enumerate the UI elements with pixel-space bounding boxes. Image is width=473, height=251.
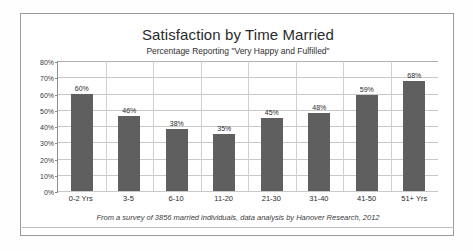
x-axis-category-label: 21-30 xyxy=(248,194,296,203)
y-axis-tick-mark xyxy=(55,192,58,193)
chart-title: Satisfaction by Time Married xyxy=(21,26,455,43)
bar[interactable]: 38% xyxy=(166,129,188,191)
bar[interactable]: 45% xyxy=(261,118,283,191)
bar[interactable]: 35% xyxy=(213,134,235,191)
y-axis-tick-label: 60% xyxy=(40,91,54,98)
bar-value-label: 59% xyxy=(360,86,374,93)
bar-slot: 45% xyxy=(248,61,296,191)
bar-slot: 46% xyxy=(106,61,154,191)
bar-slot: 68% xyxy=(391,61,439,191)
bar-value-label: 60% xyxy=(75,85,89,92)
chart-page: Satisfaction by Time Married Percentage … xyxy=(0,0,473,251)
y-axis-tick-label: 50% xyxy=(40,107,54,114)
bar-value-label: 48% xyxy=(312,104,326,111)
chart-frame: Satisfaction by Time Married Percentage … xyxy=(20,13,454,236)
bar[interactable]: 46% xyxy=(118,116,140,191)
bar-slot: 38% xyxy=(153,61,201,191)
bar-value-label: 46% xyxy=(122,107,136,114)
y-axis-tick-label: 0% xyxy=(44,189,54,196)
footnote-divider xyxy=(22,227,454,228)
title-block: Satisfaction by Time Married Percentage … xyxy=(21,26,455,56)
bar[interactable]: 59% xyxy=(356,95,378,191)
bars-layer: 60%46%38%35%45%48%59%68% xyxy=(58,61,438,191)
y-axis-tick-label: 40% xyxy=(40,124,54,131)
y-axis-tick-label: 20% xyxy=(40,156,54,163)
x-axis-category-label: 31-40 xyxy=(295,194,343,203)
y-axis-tick-label: 30% xyxy=(40,140,54,147)
bar-slot: 59% xyxy=(343,61,391,191)
bar-slot: 48% xyxy=(296,61,344,191)
chart-subtitle: Percentage Reporting "Very Happy and Ful… xyxy=(21,46,455,56)
x-axis-labels: 0-2 Yrs3-56-1011-2021-3031-4041-5051+ Yr… xyxy=(57,194,438,203)
x-axis-category-label: 0-2 Yrs xyxy=(57,194,105,203)
bar-value-label: 45% xyxy=(265,109,279,116)
y-axis-tick-label: 70% xyxy=(40,75,54,82)
plot-area: 80%70%60%50%40%30%20%10%0% 60%46%38%35%4… xyxy=(57,61,438,192)
plot-wrap: 80%70%60%50%40%30%20%10%0% 60%46%38%35%4… xyxy=(57,61,438,192)
bar-value-label: 38% xyxy=(170,120,184,127)
x-axis-category-label: 6-10 xyxy=(152,194,200,203)
bar-value-label: 35% xyxy=(217,125,231,132)
y-axis-tick-label: 10% xyxy=(40,172,54,179)
x-axis-category-label: 41-50 xyxy=(343,194,391,203)
x-axis-category-label: 11-20 xyxy=(200,194,248,203)
bar-slot: 35% xyxy=(201,61,249,191)
bar[interactable]: 48% xyxy=(308,113,330,191)
bar-value-label: 68% xyxy=(407,72,421,79)
bar[interactable]: 68% xyxy=(403,81,425,192)
x-axis-category-label: 51+ Yrs xyxy=(390,194,438,203)
x-axis-category-label: 3-5 xyxy=(105,194,153,203)
y-axis-tick-label: 80% xyxy=(40,59,54,66)
chart-footnote: From a survey of 3856 married individual… xyxy=(21,213,455,222)
bar-slot: 60% xyxy=(58,61,106,191)
gridline: 0% xyxy=(58,191,438,192)
bar[interactable]: 60% xyxy=(71,94,93,192)
